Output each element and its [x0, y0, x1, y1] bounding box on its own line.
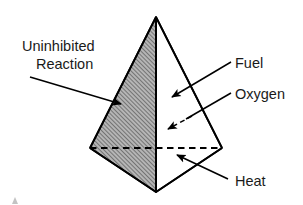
label-uninhibited-reaction-line2: Reaction: [36, 56, 93, 72]
label-oxygen: Oxygen: [235, 86, 285, 102]
label-heat: Heat: [235, 173, 266, 189]
label-fuel: Fuel: [235, 55, 263, 71]
fire-tetrahedron-figure: Uninhibited Reaction Fuel Oxygen Heat: [0, 0, 303, 205]
label-uninhibited-reaction-line1: Uninhibited: [22, 38, 95, 54]
